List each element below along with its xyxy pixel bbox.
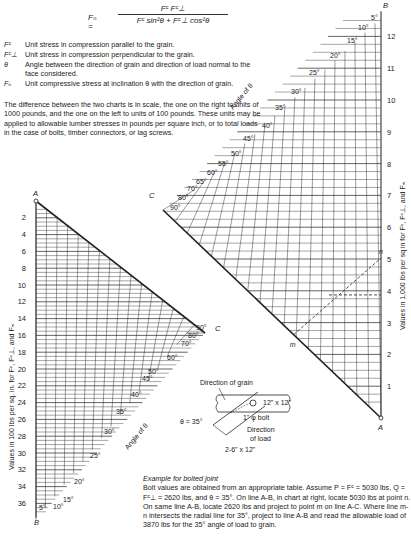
left-angle-label: 45°: [142, 375, 153, 382]
left-angle-label: 40°: [131, 391, 142, 398]
left-axis-tick: 6: [22, 247, 26, 256]
right-axis-tick: 9: [387, 128, 391, 137]
point-a-marker: [379, 416, 383, 420]
point-a-label: A: [32, 189, 38, 198]
left-angle-label: 5°: [39, 504, 46, 511]
right-angle-label: 25°: [309, 69, 320, 76]
right-axis-tick: 7: [387, 191, 391, 200]
left-axis-tick: 18: [18, 348, 26, 357]
left-angle-label: 50°: [148, 368, 159, 375]
point-a-label: A: [377, 423, 383, 432]
point-a-marker: [34, 199, 38, 203]
left-angle-label: 20°: [74, 478, 85, 485]
left-axis-tick: 12: [18, 297, 26, 306]
right-axis-tick: 5: [387, 255, 391, 264]
right-angle-label: 40°: [262, 122, 273, 129]
right-angle-label: 65°: [196, 178, 207, 185]
left-axis-tick: 22: [18, 381, 26, 390]
left-axis-tick: 32: [18, 465, 26, 474]
direction-of-grain-label: Direction of grain: [200, 379, 253, 387]
right-axis-tick: 12: [387, 32, 395, 41]
right-angle-label: 80°: [178, 194, 189, 201]
left-axis-tick: 34: [18, 482, 26, 491]
side-member-label: 2-6" x 12": [225, 446, 256, 453]
left-angle-label: 80°: [188, 332, 199, 339]
right-angle-label: 50°: [231, 150, 242, 157]
left-angle-label: 30°: [104, 428, 115, 435]
right-angle-label: 30°: [291, 88, 302, 95]
left-axis-tick: 4: [22, 230, 26, 239]
right-axis-tick: 8: [387, 160, 391, 169]
point-c-label: C: [215, 324, 221, 333]
left-axis-tick: 30: [18, 449, 26, 458]
point-b-label: B: [34, 518, 39, 527]
point-m-label: m: [290, 341, 296, 348]
right-axis-tick: 4: [387, 287, 391, 296]
left-axis-label: Values in 100 lbs per sq. in. for Fᶜ, Fᶜ…: [8, 324, 16, 470]
hankinson-charts: ABC246810121416182022242628303234365°10°…: [0, 0, 411, 539]
left-axis-tick: 20: [18, 365, 26, 374]
point-n-label: n: [379, 248, 383, 255]
bolt-label: 1" φ bolt: [243, 414, 269, 422]
main-member-break-icon: [216, 395, 218, 412]
example-text: Bolt values are obtained from an appropr…: [143, 483, 411, 529]
left-angle-label: 60°: [167, 354, 178, 361]
example-title: Example for bolted joint: [143, 474, 411, 483]
right-axis-tick: 1: [387, 382, 391, 391]
right-angle-label: 35°: [275, 104, 286, 111]
right-axis-tick: 2: [387, 350, 391, 359]
point-b-label: B: [383, 1, 388, 10]
left-angle-label: 25°: [90, 452, 101, 459]
right-axis-tick: 6: [387, 223, 391, 232]
left-axis-tick: 10: [18, 281, 26, 290]
main-member-label: 12" x 12": [263, 399, 291, 406]
left-axis-tick: 36: [18, 499, 26, 508]
right-angle-label: 70°: [187, 185, 198, 192]
left-axis-tick: 2: [22, 213, 26, 222]
bolt-icon: [250, 400, 256, 406]
right-angle-label: 20°: [330, 52, 341, 59]
left-angle-label: 70°: [181, 340, 192, 347]
example-section: Example for bolted joint Bolt values are…: [143, 474, 411, 530]
point-c-label: C: [149, 191, 155, 200]
right-angle-of-theta: Angle of θ: [228, 82, 254, 111]
left-axis-tick: 24: [18, 398, 26, 407]
left-axis-tick: 8: [22, 264, 26, 273]
theta-label: θ = 35°: [180, 418, 203, 425]
left-angle-label: 15°: [63, 496, 74, 503]
left-axis-tick: 14: [18, 314, 26, 323]
left-angle-label: 90°: [196, 324, 207, 331]
left-angle-of-theta: Angle of θ: [123, 422, 149, 451]
left-axis-tick: 16: [18, 331, 26, 340]
direction-of-load-label: of load: [250, 435, 271, 442]
left-axis-tick: 28: [18, 432, 26, 441]
right-angle-label: 10°: [358, 24, 369, 31]
right-axis-tick: 3: [387, 319, 391, 328]
right-angle-label: 5°: [371, 14, 378, 21]
right-angle-label: 55°: [218, 160, 229, 167]
right-angle-label: 45°: [243, 135, 254, 142]
right-angle-label: 60°: [207, 169, 218, 176]
right-axis-tick: 11: [387, 64, 395, 73]
right-angle-label: 15°: [347, 37, 358, 44]
right-axis-tick: 10: [387, 96, 395, 105]
left-angle-label: 35°: [116, 408, 127, 415]
direction-of-load-label: Direction: [247, 426, 275, 433]
right-axis-label: Values in 1,000 lbs per sq in for Fᶜ, Fᶜ…: [399, 182, 407, 330]
left-axis-tick: 26: [18, 415, 26, 424]
left-angle-label: 10°: [53, 503, 64, 510]
right-angle-label: 90°: [170, 204, 181, 211]
